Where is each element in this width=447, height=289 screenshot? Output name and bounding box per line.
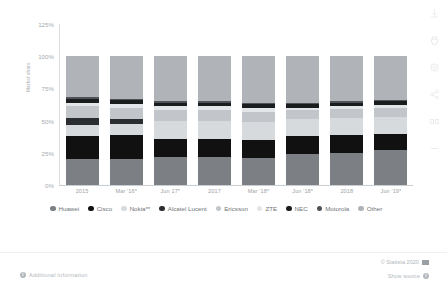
legend-item[interactable]: Nokia** (121, 205, 150, 212)
stacked-bar[interactable] (154, 24, 187, 185)
y-tick-label: 25% (42, 149, 54, 156)
legend-label: NEC (295, 205, 308, 212)
legend-label: Cisco (97, 205, 112, 212)
y-tick-label: 75% (42, 85, 54, 92)
bar-segment[interactable] (330, 109, 363, 118)
bar-segment[interactable] (330, 56, 363, 101)
legend-item[interactable]: ZTE (257, 205, 277, 212)
bar-column[interactable] (148, 24, 192, 185)
x-tick-label: Mar '18* (237, 188, 281, 194)
legend-swatch-icon (121, 206, 127, 212)
bar-column[interactable] (325, 24, 369, 185)
bar-segment[interactable] (374, 134, 407, 151)
legend-item[interactable]: NEC (286, 205, 308, 212)
bar-column[interactable] (281, 24, 325, 185)
legend-swatch-icon (216, 206, 222, 212)
bar-segment[interactable] (198, 157, 231, 185)
bar-segment[interactable] (66, 136, 99, 159)
stacked-bar[interactable] (110, 24, 143, 185)
legend-item[interactable]: Alcatel Lucent (159, 205, 206, 212)
legend-label: Alcatel Lucent (168, 205, 207, 212)
chart-legend: HuaweiCiscoNokia**Alcatel LucentEricsson… (50, 205, 440, 212)
bar-segment[interactable] (242, 140, 275, 158)
bar-segment[interactable] (330, 118, 363, 135)
bar-segment[interactable] (286, 154, 319, 185)
bar-segment[interactable] (66, 56, 99, 97)
bar-segment[interactable] (242, 56, 275, 102)
legend-swatch-icon (88, 206, 94, 212)
y-axis-ticks: 125%100%75%50%25%0% (0, 6, 60, 196)
copyright-label: © Statista 2020 (381, 259, 419, 265)
legend-label: Nokia** (130, 205, 151, 212)
bar-segment[interactable] (154, 56, 187, 101)
chart-page: Market share 125%100%75%50%25%0% 2015Mar… (0, 0, 447, 289)
bar-segment[interactable] (286, 136, 319, 154)
stacked-bar[interactable] (374, 24, 407, 185)
y-tick-label: 0% (45, 182, 54, 189)
bar-segment[interactable] (242, 112, 275, 122)
legend-item[interactable]: Motorola (317, 205, 350, 212)
legend-swatch-icon (257, 206, 263, 212)
bar-segment[interactable] (154, 121, 187, 139)
bar-column[interactable] (192, 24, 236, 185)
bar-segment[interactable] (154, 139, 187, 157)
bar-segment[interactable] (374, 108, 407, 117)
legend-item[interactable]: Ericsson (216, 205, 248, 212)
y-tick-label: 50% (42, 117, 54, 124)
bar-segment[interactable] (154, 157, 187, 185)
bar-segment[interactable] (374, 150, 407, 185)
x-tick-label: Jun '19* (369, 188, 413, 194)
bar-segment[interactable] (198, 110, 231, 120)
x-tick-label: 2017 (192, 188, 236, 194)
copyright: © Statista 2020 (381, 259, 429, 265)
stacked-bar[interactable] (66, 24, 99, 185)
x-tick-label: Mar '16* (104, 188, 148, 194)
legend-label: ZTE (265, 205, 277, 212)
x-tick-label: Jun 17* (148, 188, 192, 194)
bar-segment[interactable] (198, 121, 231, 139)
legend-item[interactable]: Other (358, 205, 382, 212)
stacked-bar[interactable] (286, 24, 319, 185)
bar-column[interactable] (369, 24, 413, 185)
bar-segment[interactable] (198, 56, 231, 101)
bar-segment[interactable] (66, 159, 99, 185)
legend-item[interactable]: Huawei (50, 205, 79, 212)
bar-segment[interactable] (110, 124, 143, 134)
bar-segment[interactable] (286, 110, 319, 119)
legend-swatch-icon (317, 206, 323, 212)
legend-swatch-icon (159, 206, 165, 212)
bar-segment[interactable] (330, 153, 363, 185)
bar-column[interactable] (237, 24, 281, 185)
bar-segment[interactable] (374, 56, 407, 100)
bar-column[interactable] (104, 24, 148, 185)
bar-segment[interactable] (110, 56, 143, 99)
bar-segment[interactable] (242, 122, 275, 140)
bar-segment[interactable] (110, 108, 143, 120)
bar-segment[interactable] (286, 56, 319, 102)
stacked-bars (60, 24, 413, 185)
bar-segment[interactable] (242, 158, 275, 185)
y-tick-label: 125% (38, 21, 54, 28)
additional-information-link[interactable]: i Additional Information (20, 272, 88, 278)
stacked-bar[interactable] (198, 24, 231, 185)
stacked-bar[interactable] (242, 24, 275, 185)
bar-segment[interactable] (374, 117, 407, 134)
show-source-link[interactable]: Show source i (388, 273, 429, 279)
x-axis-labels: 2015Mar '16*Jun 17*2017Mar '18*Jun '18*2… (60, 188, 413, 194)
bar-segment[interactable] (154, 110, 187, 120)
x-tick-label: 2018 (325, 188, 369, 194)
bar-segment[interactable] (66, 125, 99, 137)
flag-icon (422, 260, 429, 265)
additional-information-label: Additional Information (29, 272, 88, 278)
bar-segment[interactable] (286, 119, 319, 136)
bar-segment[interactable] (110, 159, 143, 185)
bar-column[interactable] (60, 24, 104, 185)
bar-segment[interactable] (66, 106, 99, 118)
bar-segment[interactable] (330, 135, 363, 153)
stacked-bar[interactable] (330, 24, 363, 185)
legend-label: Huawei (59, 205, 80, 212)
bar-segment[interactable] (110, 135, 143, 159)
legend-item[interactable]: Cisco (88, 205, 112, 212)
y-tick-label: 100% (38, 53, 54, 60)
bar-segment[interactable] (198, 139, 231, 157)
